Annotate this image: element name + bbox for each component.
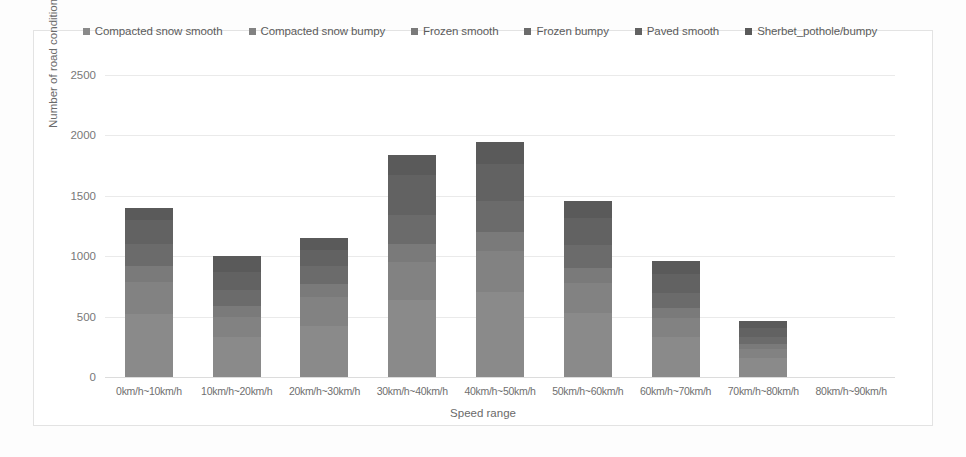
bar-slot xyxy=(105,75,193,377)
bar-segment[interactable] xyxy=(388,155,436,176)
bar-segment[interactable] xyxy=(476,292,524,377)
legend-item[interactable]: Sherbet_pothole/bumpy xyxy=(745,25,877,37)
stacked-bar[interactable] xyxy=(739,321,787,377)
bar-slot xyxy=(193,75,281,377)
bar-segment[interactable] xyxy=(476,232,524,251)
legend-item[interactable]: Frozen smooth xyxy=(411,25,498,37)
y-axis-tick-label: 2500 xyxy=(70,69,96,81)
bar-segment[interactable] xyxy=(739,337,787,344)
bar-segment[interactable] xyxy=(476,201,524,232)
x-axis-tick-label: 70km/h~80km/h xyxy=(719,385,807,397)
bar-slot xyxy=(456,75,544,377)
bar-slot xyxy=(544,75,632,377)
stacked-bar[interactable] xyxy=(476,141,524,377)
stacked-bar[interactable] xyxy=(388,155,436,377)
x-axis-tick-label: 60km/h~70km/h xyxy=(632,385,720,397)
legend-swatch-icon xyxy=(524,28,531,35)
gridline: 0 xyxy=(105,377,895,378)
bar-slot xyxy=(281,75,369,377)
bar-segment[interactable] xyxy=(739,349,787,357)
legend-item[interactable]: Compacted snow smooth xyxy=(83,25,223,37)
bar-segment[interactable] xyxy=(739,358,787,377)
bar-segment[interactable] xyxy=(564,313,612,377)
legend-label: Frozen smooth xyxy=(423,25,498,37)
bar-segment[interactable] xyxy=(125,220,173,244)
bar-segment[interactable] xyxy=(125,244,173,266)
bar-segment[interactable] xyxy=(388,244,436,262)
bar-segment[interactable] xyxy=(125,266,173,282)
bar-segment[interactable] xyxy=(652,318,700,337)
bar-segment[interactable] xyxy=(125,314,173,377)
bar-segment[interactable] xyxy=(388,175,436,215)
bar-segment[interactable] xyxy=(300,266,348,284)
bar-segment[interactable] xyxy=(300,238,348,250)
bar-slot xyxy=(368,75,456,377)
y-axis-tick-label: 1000 xyxy=(70,250,96,262)
bar-segment[interactable] xyxy=(476,142,524,165)
bar-segment[interactable] xyxy=(739,328,787,338)
bar-segment[interactable] xyxy=(564,245,612,268)
y-axis-tick-label: 2000 xyxy=(70,129,96,141)
bar-segment[interactable] xyxy=(652,261,700,274)
bar-segment[interactable] xyxy=(476,251,524,292)
bar-segment[interactable] xyxy=(388,215,436,244)
bar-segment[interactable] xyxy=(564,218,612,246)
legend-label: Frozen bumpy xyxy=(536,25,608,37)
bar-segment[interactable] xyxy=(564,283,612,313)
legend-swatch-icon xyxy=(635,28,642,35)
x-axis-tick-label: 50km/h~60km/h xyxy=(544,385,632,397)
bar-segment[interactable] xyxy=(564,201,612,218)
bar-segment[interactable] xyxy=(652,337,700,377)
legend-label: Compacted snow bumpy xyxy=(261,25,386,37)
bar-segment[interactable] xyxy=(300,284,348,297)
legend-item[interactable]: Paved smooth xyxy=(635,25,719,37)
plot-area: 05001000150020002500 xyxy=(105,75,895,377)
x-axis-tick-label: 80km/h~90km/h xyxy=(807,385,895,397)
bar-slot xyxy=(632,75,720,377)
legend-label: Sherbet_pothole/bumpy xyxy=(757,25,877,37)
bar-segment[interactable] xyxy=(300,250,348,266)
bar-segment[interactable] xyxy=(652,308,700,318)
bar-segment[interactable] xyxy=(213,337,261,377)
y-axis-tick-label: 500 xyxy=(77,311,96,323)
bar-segment[interactable] xyxy=(213,306,261,317)
x-axis-tick-label: 10km/h~20km/h xyxy=(193,385,281,397)
bar-segment[interactable] xyxy=(388,300,436,377)
stacked-bar[interactable] xyxy=(300,238,348,377)
bar-segment[interactable] xyxy=(300,297,348,326)
stacked-bar[interactable] xyxy=(564,201,612,377)
bar-segment[interactable] xyxy=(213,272,261,290)
x-axis-tick-label: 30km/h~40km/h xyxy=(368,385,456,397)
stacked-bar[interactable] xyxy=(652,261,700,377)
bar-segment[interactable] xyxy=(213,290,261,306)
x-axis-tick-label: 20km/h~30km/h xyxy=(281,385,369,397)
bar-segment[interactable] xyxy=(213,256,261,272)
x-axis-title: Speed range xyxy=(0,407,966,419)
bar-slot xyxy=(719,75,807,377)
bar-segment[interactable] xyxy=(652,293,700,309)
bar-segment[interactable] xyxy=(213,317,261,338)
bar-segment[interactable] xyxy=(652,274,700,292)
legend-swatch-icon xyxy=(249,28,256,35)
bar-group xyxy=(105,75,895,377)
legend-label: Paved smooth xyxy=(647,25,719,37)
legend-item[interactable]: Frozen bumpy xyxy=(524,25,608,37)
x-axis-tick-label: 40km/h~50km/h xyxy=(456,385,544,397)
y-axis-tick-label: 0 xyxy=(90,371,96,383)
bar-slot xyxy=(807,75,895,377)
legend-swatch-icon xyxy=(411,28,418,35)
chart-legend: Compacted snow smoothCompacted snow bump… xyxy=(80,22,880,40)
legend-item[interactable]: Compacted snow bumpy xyxy=(249,25,386,37)
bar-segment[interactable] xyxy=(564,268,612,282)
stacked-bar[interactable] xyxy=(125,208,173,377)
legend-label: Compacted snow smooth xyxy=(95,25,223,37)
bar-segment[interactable] xyxy=(125,208,173,220)
legend-swatch-icon xyxy=(83,28,90,35)
bar-segment[interactable] xyxy=(125,282,173,315)
legend-swatch-icon xyxy=(745,28,752,35)
stacked-bar[interactable] xyxy=(213,256,261,377)
bar-segment[interactable] xyxy=(476,164,524,200)
bar-segment[interactable] xyxy=(388,262,436,299)
bar-segment[interactable] xyxy=(300,326,348,377)
x-axis-tick-label: 0km/h~10km/h xyxy=(105,385,193,397)
